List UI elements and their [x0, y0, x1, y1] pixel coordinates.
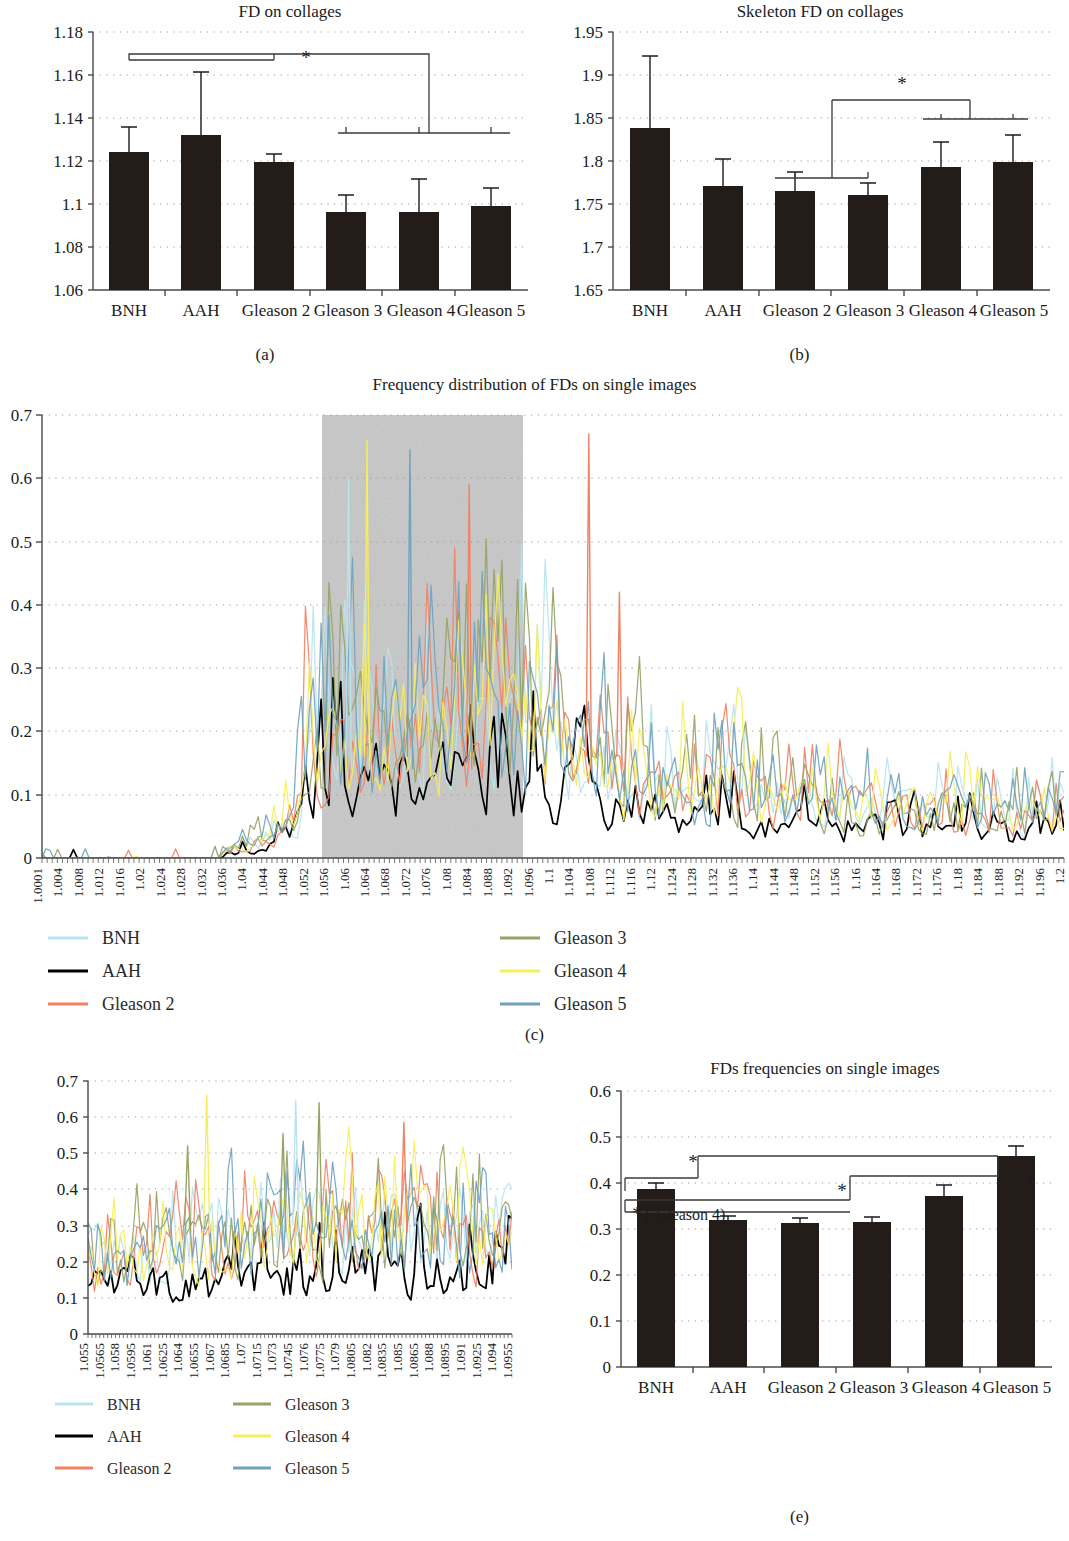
- x-tick-label: 1.094: [484, 1343, 499, 1373]
- data-curves-c: [42, 434, 1064, 858]
- bar-aah: [703, 186, 743, 290]
- x-tick-label: 1.056: [316, 868, 331, 898]
- y-tick-label: 1.8: [582, 152, 603, 171]
- x-tick-label: 1.052: [296, 868, 311, 897]
- x-tick-label: 1.104: [561, 868, 576, 898]
- legend-item-gleason3: Gleason 3: [500, 928, 626, 948]
- x-tick-label: 1.073: [264, 1343, 279, 1372]
- cat-label: Gleason 2: [242, 301, 310, 320]
- x-tick-label: 1.0775: [312, 1343, 327, 1379]
- y-tick-label: 0.5: [590, 1128, 611, 1147]
- x-tick-label: 1.0715: [249, 1343, 264, 1379]
- x-tick-label: 1.1: [541, 868, 556, 884]
- x-tick-label: 1.192: [1011, 868, 1026, 897]
- x-tick-label: 1.116: [623, 868, 638, 897]
- legend-item-gleason3: Gleason 3: [233, 1396, 349, 1413]
- y-tick-label: 0.5: [57, 1144, 78, 1163]
- x-tick-label: 1.172: [909, 868, 924, 897]
- cat-label: BNH: [632, 301, 668, 320]
- x-tick-label: 1.076: [296, 1343, 311, 1373]
- x-tick-label: 1.032: [194, 868, 209, 897]
- y-tick-label: 0.4: [11, 596, 33, 615]
- x-tick-label: 1.0565: [92, 1343, 107, 1379]
- x-tick-label: 1.188: [991, 868, 1006, 897]
- cat-label: Gleason 4: [909, 301, 978, 320]
- x-tick-label: 1.079: [327, 1343, 342, 1372]
- x-tick-label: 1.0865: [406, 1343, 421, 1379]
- x-tick-label: 1.088: [421, 1343, 436, 1372]
- bar-gleason3: [848, 195, 888, 290]
- significance-star: *: [1025, 1172, 1035, 1193]
- y-tick-label: 1.06: [53, 281, 83, 300]
- x-tick-label: 1.02: [132, 868, 147, 891]
- y-tick-label: 1.9: [582, 66, 603, 85]
- x-tick-label: 1.132: [705, 868, 720, 897]
- y-tick-label: 1.14: [53, 109, 83, 128]
- x-tick-label: 1.108: [582, 868, 597, 897]
- data-curves-d: [88, 1095, 512, 1302]
- legend-d: BNH AAH Gleason 2 Gleason 3 Gleason 4 Gl…: [45, 1390, 465, 1495]
- y-tick-label: 1.7: [582, 238, 604, 257]
- bar-bnh: [630, 128, 670, 290]
- x-tick-label: 1.112: [602, 868, 617, 897]
- panel-c: Frequency distribution of FDs on single …: [0, 375, 1069, 1035]
- x-axis-e: [621, 1367, 1052, 1373]
- y-tick-label: 0.1: [57, 1289, 78, 1308]
- bar-aah: [709, 1220, 747, 1367]
- x-ticks-c: [42, 858, 1064, 863]
- legend-label: Gleason 3: [554, 928, 626, 948]
- cat-label: AAH: [705, 301, 742, 320]
- cat-label: AAH: [710, 1378, 747, 1397]
- x-tick-label: 1.0625: [155, 1343, 170, 1379]
- panel-d: 0.7 0.6 0.5 0.4 0.3 0.2 0.1 0 1.0551.056…: [0, 1045, 530, 1541]
- panel-c-plot: 0.7 0.6 0.5 0.4 0.3 0.2 0.1 0 1.00011.00…: [0, 403, 1069, 963]
- legend-item-aah: AAH: [48, 961, 141, 981]
- y-tick-label: 0: [70, 1325, 79, 1344]
- y-tick-label: 1.65: [573, 281, 603, 300]
- x-tick-label: 1.068: [377, 868, 392, 897]
- x-tick-label: 1.04: [234, 868, 249, 891]
- x-tick-label: 1.085: [390, 1343, 405, 1372]
- x-tick-label: 1.072: [398, 868, 413, 897]
- x-tick-label: 1.061: [139, 1343, 154, 1372]
- x-tick-label: 1.136: [725, 868, 740, 898]
- x-tick-label: 1.048: [275, 868, 290, 897]
- y-tick-label: 1.18: [53, 23, 83, 42]
- x-tick-label: 1.067: [202, 1343, 217, 1373]
- x-tick-label: 1.128: [684, 868, 699, 897]
- bar-gleason5: [471, 206, 511, 290]
- x-tick-label: 1.012: [91, 868, 106, 897]
- x-tick-label: 1.176: [929, 868, 944, 898]
- x-tick-label: 1.004: [50, 868, 65, 898]
- cat-label: Gleason 3: [840, 1378, 908, 1397]
- x-tick-label: 1.164: [868, 868, 883, 898]
- y-tick-label: 1.12: [53, 152, 83, 171]
- legend-label: BNH: [102, 928, 140, 948]
- panel-e-title: FDs frequencies on single images: [590, 1059, 1060, 1079]
- x-tick-label: 1.0895: [437, 1343, 452, 1379]
- legend-item-bnh: BNH: [48, 928, 140, 948]
- bar-gleason3: [326, 212, 366, 290]
- y-tick-label: 1.85: [573, 109, 603, 128]
- panel-b: Skeleton FD on collages 1.95 1.9 1.85 1.…: [530, 0, 1069, 372]
- x-tick-label: 1.124: [664, 868, 679, 898]
- y-tick-label: 0.5: [11, 533, 32, 552]
- x-tick-label: 1.024: [153, 868, 168, 898]
- significance-star: *: [688, 1151, 698, 1172]
- x-tick-label: 1.0685: [217, 1343, 232, 1379]
- caption-c: (c): [0, 1025, 1069, 1045]
- y-tick-label: 0.2: [57, 1253, 78, 1272]
- bar-gleason3: [853, 1222, 891, 1367]
- cat-label: Gleason 2: [763, 301, 831, 320]
- x-tick-label: 1.091: [453, 1343, 468, 1372]
- panel-e-plot: 0.6 0.5 0.4 0.3 0.2 0.1 0: [530, 1079, 1069, 1419]
- legend-label: AAH: [102, 961, 141, 981]
- x-tick-label: 1.092: [500, 868, 515, 897]
- y-tick-label: 0.1: [590, 1312, 611, 1331]
- x-tick-label: 1.064: [170, 1343, 185, 1373]
- panel-b-plot: 1.95 1.9 1.85 1.8 1.75 1.7 1.65: [530, 18, 1069, 358]
- significance-star: *: [897, 73, 907, 94]
- legend-label: Gleason 2: [102, 994, 174, 1014]
- x-tick-label: 1.044: [255, 868, 270, 898]
- y-tick-label: 0.6: [590, 1082, 611, 1101]
